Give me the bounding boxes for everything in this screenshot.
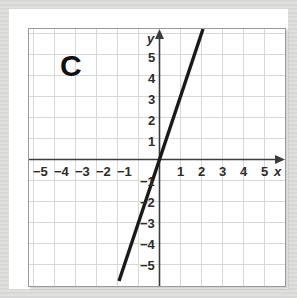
x-tick-label-3: 3 [219,165,226,178]
screenshot-root: C −5 −4 −3 −2 −1 1 2 3 4 5 5 4 3 2 1 −1 … [0,0,297,298]
x-axis-label: x [274,165,281,178]
y-tick-label-neg3: −3 [140,217,155,230]
plot-area: C −5 −4 −3 −2 −1 1 2 3 4 5 5 4 3 2 1 −1 … [29,29,285,286]
panel-letter: C [60,51,82,81]
graph-frame: C −5 −4 −3 −2 −1 1 2 3 4 5 5 4 3 2 1 −1 … [28,28,286,287]
y-tick-label-neg4: −4 [140,238,155,251]
y-tick-label-5: 5 [148,51,155,64]
x-tick-label-1: 1 [177,165,184,178]
x-tick-label-neg2: −2 [96,165,111,178]
x-tick-label-2: 2 [198,165,205,178]
x-tick-label-neg3: −3 [75,165,90,178]
x-tick-label-neg5: −5 [33,165,48,178]
x-tick-label-5: 5 [261,165,268,178]
x-tick-label-4: 4 [240,165,247,178]
y-tick-label-4: 4 [148,72,155,85]
y-tick-label-1: 1 [148,135,155,148]
y-tick-label-3: 3 [148,93,155,106]
y-tick-label-neg5: −5 [140,259,155,272]
x-tick-label-neg4: −4 [54,165,69,178]
y-tick-label-neg2: −2 [140,196,155,209]
y-axis-label: y [147,32,154,45]
white-card: C −5 −4 −3 −2 −1 1 2 3 4 5 5 4 3 2 1 −1 … [9,9,288,289]
y-tick-label-neg1: −1 [140,175,155,188]
x-tick-label-neg1: −1 [117,165,132,178]
y-tick-label-2: 2 [148,114,155,127]
